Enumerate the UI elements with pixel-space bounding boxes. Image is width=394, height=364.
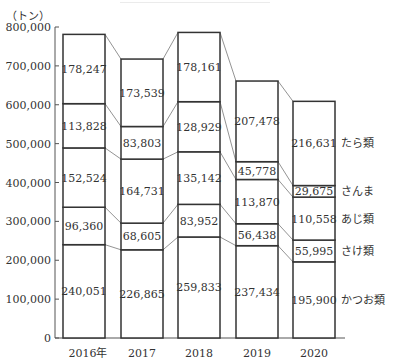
data-label: 128,929 xyxy=(176,121,222,134)
connector-line xyxy=(278,224,293,240)
data-label: 259,833 xyxy=(176,281,222,294)
data-label: 55,995 xyxy=(295,245,334,258)
connector-line xyxy=(220,237,236,246)
x-tick-label: 2019 xyxy=(243,347,271,360)
y-tick-label: 300,000 xyxy=(6,215,52,228)
data-label: 96,360 xyxy=(65,220,104,233)
x-axis-labels: 2016年2017201820192020 xyxy=(69,346,329,360)
data-label: 164,731 xyxy=(119,185,165,198)
data-label: 83,803 xyxy=(123,137,162,150)
connector-line xyxy=(163,32,178,59)
data-label: 237,434 xyxy=(234,286,280,299)
connector-line xyxy=(163,152,178,159)
series-labels: かつお類さけ類あじ類さんまたら類 xyxy=(341,137,385,306)
connector-line xyxy=(105,207,121,223)
bars: 240,05196,360152,524113,828178,247226,86… xyxy=(61,32,337,338)
connector-line xyxy=(105,104,121,127)
connector-line xyxy=(220,102,236,162)
data-label: 110,558 xyxy=(291,213,337,226)
y-tick-label: 200,000 xyxy=(6,254,52,267)
connector-line xyxy=(105,245,121,250)
y-tick-label: 600,000 xyxy=(6,99,52,112)
connector-line xyxy=(105,148,121,159)
y-tick-label: 800,000 xyxy=(6,21,52,34)
y-tick-label: 0 xyxy=(44,332,51,345)
legend-label: たら類 xyxy=(341,137,374,150)
data-label: 45,778 xyxy=(238,165,277,178)
legend-label: さけ類 xyxy=(341,245,374,258)
data-label: 226,865 xyxy=(119,288,165,301)
x-tick-label: 2018 xyxy=(185,347,213,360)
connector-line xyxy=(220,152,236,180)
data-label: 113,870 xyxy=(234,196,280,209)
data-label: 152,524 xyxy=(61,172,107,185)
y-tick-label: 100,000 xyxy=(6,293,52,306)
data-label: 83,952 xyxy=(180,215,219,228)
data-label: 56,438 xyxy=(238,229,277,242)
connector-line xyxy=(278,246,293,262)
data-label: 207,478 xyxy=(234,115,280,128)
data-label: 173,539 xyxy=(119,87,165,100)
x-tick-label: 2020 xyxy=(300,347,328,360)
legend-label: さんま xyxy=(341,185,374,198)
data-label: 178,247 xyxy=(61,63,107,76)
connector-line xyxy=(278,81,293,101)
connector-line xyxy=(105,34,121,59)
y-tick-label: 500,000 xyxy=(6,138,52,151)
data-label: 68,605 xyxy=(123,230,162,243)
connector-line xyxy=(163,204,178,223)
connector-line xyxy=(163,237,178,250)
legend-label: あじ類 xyxy=(341,213,374,226)
x-tick-label: 2016年 xyxy=(69,346,108,360)
connector-line xyxy=(220,32,236,81)
y-tick-label: 400,000 xyxy=(6,177,52,190)
data-label: 216,631 xyxy=(291,137,337,150)
cropped-title xyxy=(120,0,270,3)
data-label: 113,828 xyxy=(61,120,107,133)
data-label: 135,142 xyxy=(176,172,222,185)
stacked-bar-chart: （トン） 0100,000200,000300,000400,000500,00… xyxy=(0,0,394,364)
x-tick-label: 2017 xyxy=(128,347,156,360)
data-label: 29,675 xyxy=(295,185,334,198)
legend-label: かつお類 xyxy=(341,294,385,307)
data-label: 240,051 xyxy=(61,285,107,298)
y-tick-label: 700,000 xyxy=(6,60,52,73)
data-label: 195,900 xyxy=(291,294,337,307)
data-label: 178,161 xyxy=(176,61,222,74)
